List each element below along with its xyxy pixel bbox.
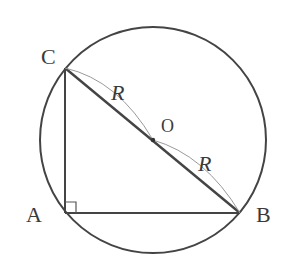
label-o: O: [161, 116, 174, 136]
label-r-upper: R: [110, 80, 125, 105]
label-a: A: [26, 202, 42, 227]
label-b: B: [256, 202, 271, 227]
label-c: C: [41, 44, 56, 69]
circle-diagram: C A B O R R: [0, 0, 292, 275]
center-point-o: [151, 138, 155, 142]
label-r-lower: R: [197, 151, 212, 176]
